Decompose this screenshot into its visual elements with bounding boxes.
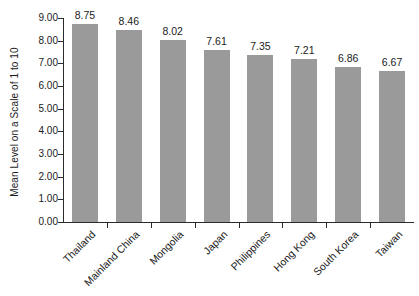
bar-value-label: 6.67: [382, 57, 402, 68]
x-axis-tick-mark: [151, 223, 152, 228]
bar[interactable]: 7.61: [204, 50, 230, 222]
bar[interactable]: 7.21: [291, 59, 317, 222]
bar-rect[interactable]: [72, 24, 98, 222]
x-axis-tick-mark: [282, 223, 283, 228]
x-axis-tick-mark: [326, 223, 327, 228]
bar-rect[interactable]: [379, 71, 405, 222]
y-axis-tick-labels: 9.008.007.006.005.004.003.002.001.000.00: [22, 0, 58, 296]
y-axis-tick-label: 9.00: [22, 13, 58, 23]
y-axis-tick-label: 2.00: [22, 172, 58, 182]
bar-rect[interactable]: [335, 67, 361, 222]
bar-value-label: 8.02: [162, 26, 182, 37]
bar-rect[interactable]: [204, 50, 230, 222]
y-axis-tick-mark: [58, 86, 63, 87]
y-axis-tick-mark: [58, 63, 63, 64]
y-axis-tick-mark: [58, 41, 63, 42]
bar-rect[interactable]: [291, 59, 317, 222]
bar-rect[interactable]: [247, 55, 273, 222]
y-axis-tick-label: 8.00: [22, 36, 58, 46]
y-axis-tick-mark: [58, 177, 63, 178]
y-axis-tick-mark: [58, 18, 63, 19]
x-axis-tick-mark: [239, 223, 240, 228]
bar-rect[interactable]: [116, 30, 142, 222]
x-axis-tick-mark: [195, 223, 196, 228]
bar-value-label: 8.46: [119, 16, 139, 27]
bar-rect[interactable]: [160, 40, 186, 222]
y-axis-tick-label: 6.00: [22, 81, 58, 91]
bar-value-label: 7.21: [294, 45, 314, 56]
bar[interactable]: 8.75: [72, 24, 98, 222]
bar-value-label: 7.35: [250, 41, 270, 52]
y-axis-tick-mark: [58, 154, 63, 155]
bar[interactable]: 7.35: [247, 55, 273, 222]
bar-chart: Mean Level on a Scale of 1 to 10 9.008.0…: [0, 0, 419, 296]
y-axis-tick-label: 3.00: [22, 149, 58, 159]
y-axis-tick-mark: [58, 109, 63, 110]
bar[interactable]: 6.67: [379, 71, 405, 222]
x-axis-category-labels: ThailandMainland ChinaMongoliaJapanPhili…: [63, 228, 419, 296]
y-axis-tick-label: 7.00: [22, 58, 58, 68]
y-axis-tick-mark: [58, 131, 63, 132]
bar-value-label: 7.61: [206, 36, 226, 47]
plot-area: 8.758.468.027.617.357.216.866.67: [63, 0, 414, 223]
bar[interactable]: 8.02: [160, 40, 186, 222]
bar-value-label: 6.86: [338, 53, 358, 64]
y-axis-tick-label: 0.00: [22, 217, 58, 227]
bar-value-label: 8.75: [75, 10, 95, 21]
y-axis-tick-mark: [58, 199, 63, 200]
y-axis-tick-mark: [58, 222, 63, 223]
y-axis-tick-label: 1.00: [22, 194, 58, 204]
bar[interactable]: 8.46: [116, 30, 142, 222]
bar[interactable]: 6.86: [335, 67, 361, 222]
x-axis-tick-mark: [107, 223, 108, 228]
x-axis-tick-mark: [370, 223, 371, 228]
y-axis-tick-label: 5.00: [22, 104, 58, 114]
y-axis-tick-label: 4.00: [22, 126, 58, 136]
